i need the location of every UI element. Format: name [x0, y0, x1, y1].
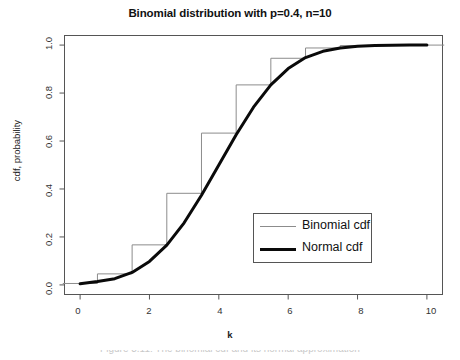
legend-line-sample-binomial-icon — [260, 226, 296, 227]
legend-label-binomial-cdf: Binomial cdf — [302, 218, 370, 232]
legend-line-sample-normal-icon — [260, 248, 296, 251]
figure-caption-text: Figure 3.11: The binomial cdf and its no… — [0, 350, 460, 354]
figure-container: Binomial distribution with p=0.4, n=10 c… — [0, 0, 460, 360]
figure-caption-clipped: Figure 3.11: The binomial cdf and its no… — [0, 350, 460, 360]
x-tick-marks — [80, 295, 427, 300]
plot-area — [0, 0, 460, 360]
legend: Binomial cdf Normal cdf — [253, 213, 372, 263]
legend-item-binomial-cdf: Binomial cdf — [254, 216, 373, 238]
legend-label-normal-cdf: Normal cdf — [302, 240, 362, 254]
legend-item-normal-cdf: Normal cdf — [254, 238, 373, 260]
y-tick-marks — [60, 45, 65, 285]
